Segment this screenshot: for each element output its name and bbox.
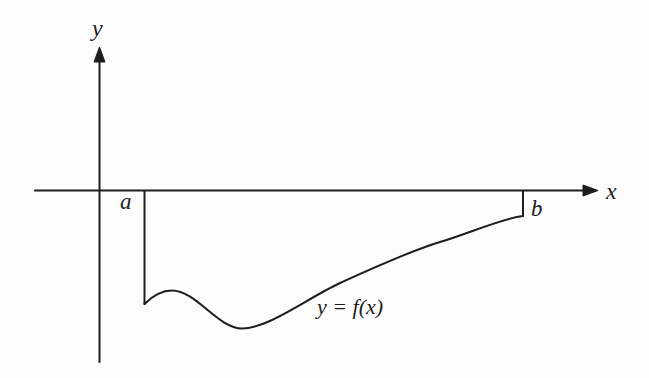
y-axis-arrowhead-icon xyxy=(94,47,105,62)
b-label: b xyxy=(531,196,543,221)
curve-equation-label: y = f(x) xyxy=(315,294,383,319)
figure: y x a b y = f(x) xyxy=(0,0,649,378)
x-axis-arrowhead-icon xyxy=(583,185,598,196)
y-axis-label: y xyxy=(90,15,103,41)
a-label: a xyxy=(120,189,132,214)
function-graph-canvas: y x a b y = f(x) xyxy=(0,0,649,378)
x-axis-label: x xyxy=(605,178,617,204)
